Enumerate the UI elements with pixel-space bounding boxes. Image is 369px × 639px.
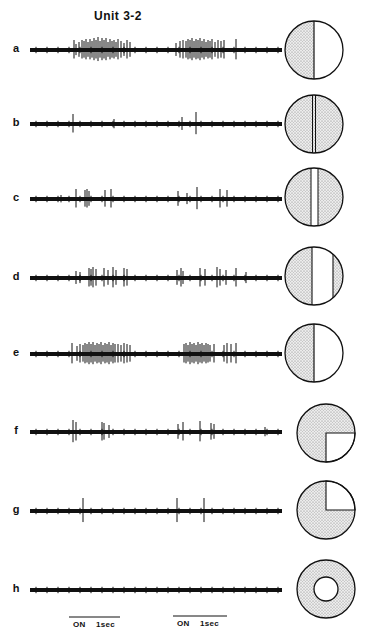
time-scale-label: 1sec xyxy=(96,620,115,629)
trace-row-a xyxy=(30,37,282,61)
baseline-trace xyxy=(30,509,282,513)
stimulus-circle-h xyxy=(297,560,355,618)
stimulus-circle-d xyxy=(285,247,343,305)
spike-traces xyxy=(30,37,282,593)
baseline-trace xyxy=(30,276,282,280)
trace-row-d xyxy=(30,267,282,287)
stimulus-circle-e xyxy=(285,324,343,382)
row-label-h: h xyxy=(9,582,23,594)
stimulus-circle-f xyxy=(297,404,355,462)
trace-row-b xyxy=(30,112,282,134)
row-label-g: g xyxy=(9,503,23,515)
row-label-a: a xyxy=(9,42,23,54)
stimulus-circle-a xyxy=(285,21,343,79)
on-label: ON xyxy=(177,619,190,628)
trace-row-f xyxy=(30,420,282,442)
trace-row-h xyxy=(30,587,282,593)
baseline-trace xyxy=(30,122,282,126)
spike-train-figure xyxy=(0,0,369,639)
stimulus-diagrams xyxy=(285,21,355,618)
time-scale-label: 1sec xyxy=(200,619,219,628)
trace-row-e xyxy=(30,342,282,364)
on-label: ON xyxy=(73,620,86,629)
trace-row-g xyxy=(30,498,282,522)
baseline-trace xyxy=(30,197,282,201)
trace-row-c xyxy=(30,187,282,209)
baseline-trace xyxy=(30,588,282,592)
row-label-e: e xyxy=(9,346,23,358)
baseline-trace xyxy=(30,48,282,52)
row-label-f: f xyxy=(9,424,23,436)
baseline-trace xyxy=(30,430,282,434)
row-label-d: d xyxy=(9,270,23,282)
baseline-trace xyxy=(30,352,282,356)
stimulus-circle-g xyxy=(297,481,355,539)
row-label-c: c xyxy=(9,191,23,203)
row-label-b: b xyxy=(9,116,23,128)
stimulus-circle-c xyxy=(285,168,343,226)
stimulus-circle-b xyxy=(285,95,343,153)
time-scale-bars xyxy=(69,616,227,617)
